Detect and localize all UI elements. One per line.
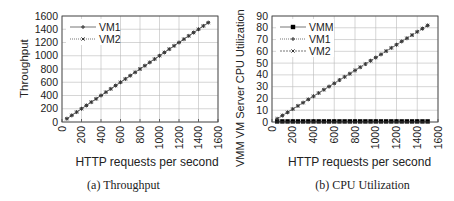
figure-cpu-utilization: 0200400600800100012001400160001020304050…: [227, 0, 454, 201]
legend-label: VM2: [99, 33, 121, 45]
data-marker: [368, 119, 372, 123]
data-marker: [384, 119, 388, 123]
data-marker: [291, 25, 295, 29]
y-tick-label: 600: [40, 76, 58, 88]
figure-caption: (b) CPU Utilization: [249, 178, 454, 193]
data-marker: [353, 119, 357, 123]
data-marker: [374, 119, 378, 123]
y-tick-label: 1400: [35, 23, 59, 35]
y-tick-label: 90: [256, 10, 268, 22]
data-marker: [296, 119, 300, 123]
data-marker: [363, 119, 367, 123]
y-tick-label: 1200: [35, 36, 59, 48]
data-marker: [394, 119, 398, 123]
y-tick-label: 800: [40, 63, 58, 75]
y-tick-label: 80: [256, 21, 268, 33]
x-tick-label: 200: [286, 126, 298, 144]
data-marker: [410, 119, 414, 123]
data-marker: [306, 119, 310, 123]
x-tick-label: 200: [75, 126, 87, 144]
y-tick-label: 40: [256, 68, 268, 80]
y-tick-label: 400: [40, 89, 58, 101]
data-marker: [285, 119, 289, 123]
x-tick-label: 400: [307, 126, 319, 144]
data-marker: [327, 119, 331, 123]
data-marker: [301, 119, 305, 123]
y-tick-label: 0: [262, 116, 268, 128]
data-marker: [348, 119, 352, 123]
data-marker: [337, 119, 341, 123]
data-marker: [358, 119, 362, 123]
figure-caption: (a) Throughput: [10, 178, 237, 193]
x-tick-label: 1200: [390, 126, 402, 150]
data-marker: [342, 119, 346, 123]
x-tick-label: 1000: [153, 126, 165, 150]
cpu-utilization-chart: 0200400600800100012001400160001020304050…: [227, 0, 454, 201]
y-tick-label: 60: [256, 45, 268, 57]
y-tick-label: 30: [256, 80, 268, 92]
x-tick-label: 1400: [192, 126, 204, 150]
data-marker: [316, 119, 320, 123]
data-marker: [311, 119, 315, 123]
y-axis-label: Throughput: [18, 39, 30, 98]
legend-label: VM1: [99, 21, 121, 33]
x-axis-label: HTTP requests per second: [62, 155, 232, 169]
y-tick-label: 70: [256, 33, 268, 45]
y-tick-label: 200: [40, 102, 58, 114]
data-marker: [379, 119, 383, 123]
y-axis-label: VMM VM Server CPU Utilization: [234, 9, 246, 167]
x-tick-label: 600: [114, 126, 126, 144]
data-marker: [291, 119, 295, 123]
y-tick-label: 1000: [35, 49, 59, 61]
x-tick-label: 1000: [369, 126, 381, 150]
legend-label: VMM: [309, 21, 334, 33]
series-vmm: [275, 119, 430, 123]
figure-throughput: 0200400600800100012001400160002004006008…: [0, 0, 227, 201]
data-marker: [420, 119, 424, 123]
x-tick-label: 400: [95, 126, 107, 144]
x-tick-label: 800: [349, 126, 361, 144]
x-tick-label: 1200: [173, 126, 185, 150]
x-tick-label: 600: [328, 126, 340, 144]
data-marker: [425, 119, 429, 123]
data-marker: [405, 119, 409, 123]
y-tick-label: 0: [52, 116, 58, 128]
legend-label: VM1: [309, 33, 331, 45]
y-tick-label: 20: [256, 92, 268, 104]
data-marker: [399, 119, 403, 123]
x-tick-label: 1600: [432, 126, 444, 150]
data-marker: [389, 119, 393, 123]
x-tick-label: 1600: [212, 126, 224, 150]
y-tick-label: 10: [256, 104, 268, 116]
data-marker: [415, 119, 419, 123]
throughput-chart: 0200400600800100012001400160002004006008…: [0, 0, 227, 201]
data-marker: [280, 119, 284, 123]
x-axis-label: HTTP requests per second: [267, 155, 452, 169]
legend-label: VM2: [309, 45, 331, 57]
y-tick-label: 50: [256, 57, 268, 69]
x-tick-label: 1400: [411, 126, 423, 150]
x-tick-label: 800: [134, 126, 146, 144]
data-marker: [322, 119, 326, 123]
y-tick-label: 1600: [35, 10, 59, 22]
data-marker: [332, 119, 336, 123]
